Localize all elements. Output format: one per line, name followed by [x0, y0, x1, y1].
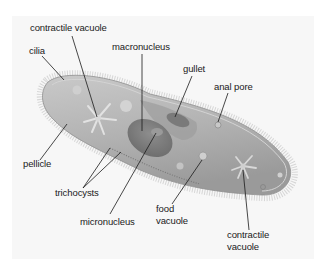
micronucleus-shape	[151, 128, 163, 136]
label-contractile-vacuole-bottom-line1: contractile	[227, 229, 269, 241]
label-trichocysts: trichocysts	[55, 187, 99, 199]
label-cilia: cilia	[29, 45, 45, 57]
label-anal-pore: anal pore	[214, 81, 253, 93]
label-food-vacuole-line2: vacuole	[156, 215, 188, 227]
label-micronucleus: micronucleus	[80, 216, 135, 228]
label-macronucleus: macronucleus	[112, 41, 170, 53]
label-gullet: gullet	[183, 63, 205, 75]
label-food-vacuole-line1: food	[156, 203, 174, 215]
label-contractile-vacuole-bottom-line2: vacuole	[227, 241, 259, 253]
label-contractile-vacuole-top: contractile vacuole	[30, 22, 107, 34]
label-pellicle: pellicle	[23, 158, 51, 170]
